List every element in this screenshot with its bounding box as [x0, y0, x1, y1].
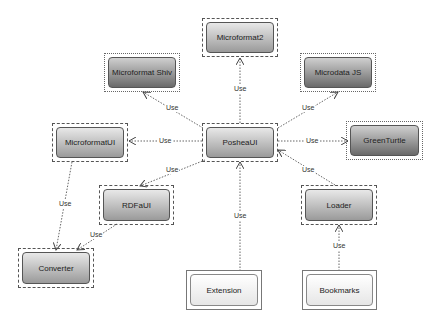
node-bookmarks[interactable]: Bookmarks — [302, 270, 377, 310]
edge-label: Use — [233, 85, 247, 93]
node-label: PosheaUI — [206, 127, 274, 158]
edge-label: Use — [301, 104, 315, 112]
node-extension[interactable]: Extension — [186, 270, 262, 310]
edge-label: Use — [301, 166, 315, 174]
edge-label: Use — [58, 200, 72, 208]
edge-label: Use — [165, 166, 179, 174]
edge-label: Use — [332, 242, 346, 250]
edge-label: Use — [158, 137, 172, 145]
node-microformat2[interactable]: Microformat2 — [202, 18, 278, 57]
edge-label: Use — [305, 137, 319, 145]
node-label: Microformat Shiv — [108, 57, 176, 88]
node-label: Extension — [190, 274, 258, 306]
node-label: Bookmarks — [306, 274, 373, 306]
edge-label: Use — [233, 212, 247, 220]
node-label: RDFaUI — [103, 189, 170, 221]
node-microformatui[interactable]: MicroformatUI — [52, 123, 128, 162]
edge-label: Use — [165, 104, 179, 112]
node-microformat-shiv[interactable]: Microformat Shiv — [104, 53, 180, 92]
node-label: Microdata JS — [304, 57, 372, 88]
node-label: Converter — [22, 252, 90, 284]
node-label: MicroformatUI — [56, 127, 124, 158]
node-converter[interactable]: Converter — [18, 248, 94, 288]
node-microdata-js[interactable]: Microdata JS — [300, 53, 376, 92]
node-posheaui[interactable]: PosheaUI — [202, 123, 278, 162]
node-label: Loader — [305, 189, 373, 221]
edge-label: Use — [89, 231, 103, 239]
node-greenturtle[interactable]: GreenTurtle — [346, 121, 423, 160]
node-label: GreenTurtle — [350, 125, 419, 156]
node-loader[interactable]: Loader — [301, 185, 377, 225]
node-rdfaui[interactable]: RDFaUI — [99, 185, 174, 225]
node-label: Microformat2 — [206, 22, 274, 53]
